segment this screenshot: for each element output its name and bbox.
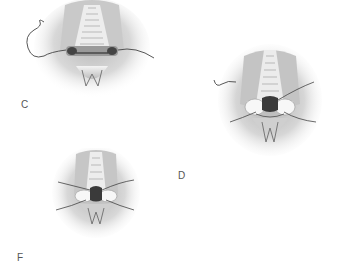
surgical-illustration-f: [50, 148, 160, 238]
panel-label-f: F: [17, 252, 23, 263]
panel-c: [20, 0, 160, 100]
panel-label-c: C: [21, 99, 28, 110]
panel-d: [212, 38, 332, 158]
panel-f: [50, 148, 160, 238]
panel-label-d: D: [178, 170, 185, 181]
surgical-illustration-c: [20, 0, 160, 100]
surgical-illustration-d: [212, 38, 332, 158]
